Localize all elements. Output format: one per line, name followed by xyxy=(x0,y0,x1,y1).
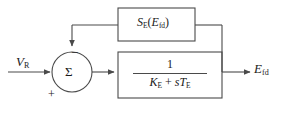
input-label-base: V xyxy=(16,54,24,69)
feedback-arg-base: E xyxy=(152,15,159,29)
denominator-plus: + xyxy=(165,75,172,89)
summing-junction-minus-sign: − xyxy=(71,46,78,59)
feedback-block-label: SE(Efd) xyxy=(137,16,169,30)
transfer-function-denominator: KE + sTE xyxy=(125,76,215,90)
output-label-subscript: fd xyxy=(262,68,269,77)
fraction-bar xyxy=(133,73,207,74)
output-label: Efd xyxy=(254,62,269,77)
summing-junction-plus-sign: + xyxy=(48,88,55,100)
transfer-function-numerator: 1 xyxy=(125,58,215,72)
output-label-base: E xyxy=(254,61,262,76)
input-label-subscript: R xyxy=(24,61,29,70)
block-diagram: VR Σ − + SE(Efd) 1 KE + sTE Efd xyxy=(0,0,281,114)
forward-block-transfer-function: 1 KE + sTE xyxy=(125,58,215,89)
denominator-t-subscript: E xyxy=(186,81,191,90)
summing-junction-symbol: Σ xyxy=(65,65,73,78)
feedback-arg-close-paren: ) xyxy=(165,15,169,29)
input-label: VR xyxy=(16,55,29,70)
